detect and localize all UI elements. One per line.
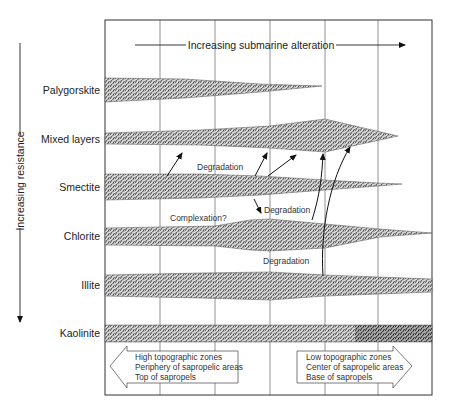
label-smectite: Smectite [59, 181, 100, 193]
label-degradation-1: Degradation [197, 162, 244, 172]
left-axis-arrow: Increasing resistance [14, 43, 26, 322]
arrow-smectite-to-mixed-2 [255, 153, 267, 176]
band-palygorskite [105, 78, 322, 102]
left-zone-line2: Periphery of sapropelic areas [135, 362, 243, 372]
band-smectite [105, 174, 402, 200]
top-axis-label: Increasing submarine alteration [188, 39, 335, 51]
left-zone-line3: Top of sapropels [135, 372, 196, 382]
label-mixed-layers: Mixed layers [41, 133, 100, 145]
right-zone-arrow: Low topographic zones Center of sapropel… [297, 346, 412, 388]
label-palygorskite: Palygorskite [43, 84, 100, 96]
arrow-smectite-to-mixed-3 [268, 155, 296, 176]
transformation-arrows [167, 147, 350, 276]
label-degradation-3: Degradation [263, 256, 310, 266]
band-mixed-layers [105, 119, 398, 152]
right-zone-line1: Low topographic zones [306, 352, 391, 362]
mineral-labels: Palygorskite Mixed layers Smectite Chlor… [41, 84, 100, 339]
arrow-smectite-to-chlorite [254, 199, 261, 213]
right-zone-line2: Center of sapropelic areas [306, 362, 403, 372]
left-zone-line1: High topographic zones [135, 352, 222, 362]
label-degradation-2: Degradation [264, 205, 311, 215]
arrow-illite-to-mixed [322, 147, 350, 276]
left-axis-label: Increasing resistance [14, 131, 26, 230]
label-complexation: Complexation? [170, 213, 227, 223]
arrow-smectite-to-mixed-1 [167, 153, 182, 176]
clay-mineral-diagram: Increasing submarine alteration Increasi… [0, 0, 450, 410]
label-chlorite: Chlorite [64, 230, 100, 242]
band-chlorite [105, 219, 432, 251]
left-zone-arrow: High topographic zones Periphery of sapr… [110, 346, 243, 388]
band-kaolinite-dense [355, 325, 432, 342]
label-kaolinite: Kaolinite [60, 327, 100, 339]
top-axis-arrow: Increasing submarine alteration [135, 39, 405, 51]
band-illite [105, 272, 432, 300]
label-illite: Illite [81, 279, 100, 291]
right-zone-line3: Base of sapropels [306, 372, 372, 382]
